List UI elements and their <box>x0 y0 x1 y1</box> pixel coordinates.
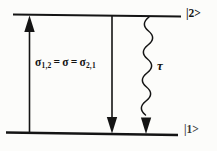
equals-sign: = <box>53 56 60 68</box>
stimulated-emission-down-arrow-icon <box>107 16 117 134</box>
cross-section-equation: σ1,2=σ=σ2,1 <box>35 57 96 69</box>
equals-sign: = <box>71 56 78 68</box>
two-level-energy-diagram: σ1,2=σ=σ2,1 τ |2> |1> <box>0 0 217 151</box>
lower-level-line <box>6 133 178 136</box>
sigma-subscript: 2,1 <box>86 61 96 70</box>
sigma-symbol: σ <box>62 56 68 68</box>
lifetime-tau-label: τ <box>157 59 163 72</box>
lower-state-ket-label: |1> <box>184 124 199 136</box>
upper-state-ket-label: |2> <box>186 8 201 20</box>
absorption-up-arrow-icon <box>24 16 34 134</box>
spontaneous-decay-wavy-arrow-icon <box>141 17 153 134</box>
sigma-subscript: 1,2 <box>41 61 51 70</box>
upper-level-line <box>13 15 181 17</box>
